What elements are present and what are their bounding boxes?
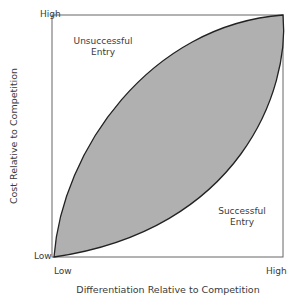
y-low-label: Low xyxy=(34,251,52,262)
unsuccessful-line2: Entry xyxy=(68,47,138,58)
successful-entry-label: Successful Entry xyxy=(214,206,270,228)
x-axis-title: Differentiation Relative to Competition xyxy=(76,284,259,295)
unsuccessful-line1: Unsuccessful xyxy=(68,36,138,47)
y-axis-title: Cost Relative to Competition xyxy=(8,68,19,204)
x-low-label: Low xyxy=(54,266,72,277)
x-high-label: High xyxy=(266,266,287,277)
successful-line1: Successful xyxy=(214,206,270,217)
successful-line2: Entry xyxy=(214,217,270,228)
unsuccessful-entry-label: Unsuccessful Entry xyxy=(68,36,138,58)
y-high-label: High xyxy=(40,9,61,20)
